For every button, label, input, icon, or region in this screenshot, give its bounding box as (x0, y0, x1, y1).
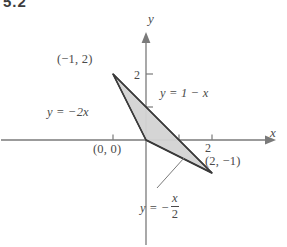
equation-label-y-equals-minus-x-over-2: y = −x2 (140, 192, 179, 220)
point-label-minus1-2: (−1, 2) (57, 53, 93, 66)
leader-line-lower-equation (157, 158, 184, 188)
x-tick-label-2: 2 (205, 142, 211, 154)
fraction-x-over-2: x2 (171, 192, 179, 220)
y-axis-label: y (148, 12, 154, 25)
y-axis-arrow-icon (142, 32, 151, 43)
point-label-origin: (0, 0) (93, 143, 121, 156)
equation-lower-prefix: y = − (140, 201, 170, 215)
equation-label-y-equals-1-minus-x: y = 1 − x (160, 87, 209, 100)
point-label-2-minus1: (2, −1) (205, 155, 241, 168)
figure-container: 5.2 y x 2 2 (−1, 2) (0, 0) (2, −1) y = (0, 0, 287, 247)
equation-label-y-equals-minus-2x: y = −2x (47, 106, 89, 119)
fraction-denominator: 2 (171, 208, 179, 221)
fraction-numerator: x (171, 192, 179, 205)
y-tick-label-2: 2 (134, 69, 140, 81)
x-axis-label: x (270, 126, 276, 139)
